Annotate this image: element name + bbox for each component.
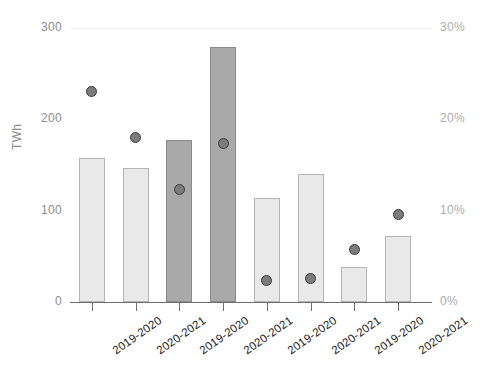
y-tick-right-20pct: 20% (440, 111, 465, 125)
bar-1 (79, 158, 105, 302)
y-tick-left-300: 300 (14, 20, 62, 34)
bar-4 (210, 47, 236, 302)
bar-2 (123, 168, 149, 302)
data-point-2 (130, 132, 141, 143)
y-tick-right-10pct: 10% (440, 203, 465, 217)
data-point-6 (305, 273, 316, 284)
data-point-4 (218, 138, 229, 149)
y-tick-left-100: 100 (14, 203, 62, 217)
x-tick-mark-2 (136, 302, 137, 311)
data-point-8 (393, 209, 404, 220)
x-tick-mark-6 (311, 302, 312, 311)
x-tick-label-1: 2019-2020 (110, 314, 163, 356)
bar-8 (385, 236, 411, 302)
bar-7 (341, 267, 367, 302)
y-tick-left-200: 200 (14, 111, 62, 125)
x-axis-line (70, 302, 432, 303)
y-tick-right-30pct: 30% (440, 20, 465, 34)
y-tick-left-0: 0 (14, 294, 62, 308)
chart-canvas: TWh 0100200300 0%10%20%30% 2019-20202020… (0, 0, 486, 390)
y-axis-title: TWh (10, 124, 24, 150)
x-tick-label-8: 2020-2021 (416, 314, 469, 356)
bar-3 (166, 140, 192, 302)
y-tick-right-0pct: 0% (440, 294, 458, 308)
data-point-7 (349, 244, 360, 255)
x-tick-mark-5 (267, 302, 268, 311)
x-tick-mark-7 (354, 302, 355, 311)
x-tick-mark-8 (398, 302, 399, 311)
plot-area (70, 28, 420, 302)
x-tick-mark-3 (179, 302, 180, 311)
data-point-3 (174, 184, 185, 195)
data-point-1 (86, 86, 97, 97)
x-tick-mark-4 (223, 302, 224, 311)
bar-5 (254, 198, 280, 302)
x-tick-label-5: 2019-2020 (285, 314, 338, 356)
x-tick-mark-1 (92, 302, 93, 311)
